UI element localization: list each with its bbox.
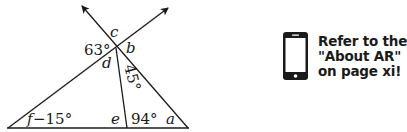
geometry-diagram: c 63° b d 45° f −15° e 94° a (0, 0, 220, 132)
ar-callout-text: Refer to the "About AR" on page xi! (318, 34, 407, 79)
label-a: a (166, 110, 175, 128)
label-45: 45° (120, 62, 144, 92)
label-94: 94° (131, 110, 158, 128)
ar-callout: Refer to the "About AR" on page xi! (282, 32, 407, 92)
label-b: b (126, 39, 136, 57)
ar-line-3: on page xi! (318, 64, 407, 79)
ar-line-2: "About AR" (318, 49, 407, 64)
label-e: e (111, 110, 120, 128)
label-f-expr: −15° (33, 110, 72, 128)
ar-line-1: Refer to the (318, 34, 407, 49)
label-c: c (110, 23, 119, 41)
label-d: d (102, 54, 112, 72)
smartphone-icon (282, 32, 312, 84)
